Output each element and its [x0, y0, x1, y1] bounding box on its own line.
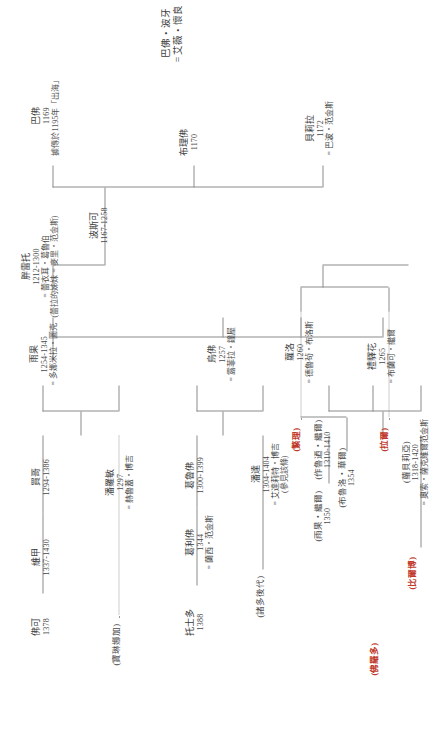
- node-spouse: = 奧索・薩克維爾范金斯: [419, 418, 428, 505]
- node-years: 1260: [295, 320, 304, 383]
- node-spouse: = 蕾衣耳・葛魯伯: [40, 215, 49, 317]
- node-ponto[interactable]: 胖雷托 1212-1300 = 蕾衣耳・葛魯伯 (蕾拉的姊妹 = 麥里・范金斯): [20, 215, 59, 317]
- node-luobeiji[interactable]: (蘿貝莉亞) 1318-1420 = 奧索・薩克維爾范金斯: [400, 418, 429, 505]
- node-griffo[interactable]: 葛利佛 1344 = 蘭西・范金斯: [184, 514, 213, 569]
- node-years: 1212-1300: [31, 215, 40, 317]
- connector: [300, 416, 346, 417]
- node-many-descendants[interactable]: (諸多後代): [254, 575, 264, 617]
- connector: [300, 287, 301, 311]
- chart-title-line-1: 巴佛・波牙: [160, 4, 172, 62]
- node-name: 烏佛: [206, 326, 217, 381]
- node-years: 1350: [322, 490, 331, 541]
- node-name: 托士多: [184, 608, 195, 635]
- node-name: 巴佛: [30, 75, 41, 155]
- connector: [118, 385, 119, 411]
- node-borolo[interactable]: 禮驛花 1265 = 布蘭可・繼爾: [366, 328, 395, 383]
- node-merry[interactable]: (繁理): [290, 427, 300, 451]
- node-years: 1304-1404: [261, 442, 270, 505]
- connector: [52, 264, 104, 265]
- node-hugo[interactable]: 雨果 1254-1345 = 多娜米拉・圖克: [28, 322, 57, 385]
- connector: [42, 385, 43, 411]
- node-name: (繁理): [290, 427, 300, 451]
- node-years: 1257: [217, 326, 226, 381]
- node-years: 1337-1430: [41, 539, 50, 575]
- node-name: 佛可: [30, 617, 41, 635]
- node-name: 維甲: [30, 539, 41, 575]
- node-years: 1167-1258: [99, 207, 108, 243]
- node-years: 1388: [195, 608, 204, 635]
- node-note: 據傳於1195年「出海」: [50, 75, 59, 155]
- node-name: (比爾博): [406, 556, 416, 589]
- node-name: 波斯可: [88, 207, 99, 243]
- node-years: 1300-1399: [195, 457, 204, 493]
- node-spouse: = 露菲拉・鐘屋: [226, 326, 235, 381]
- connector: [372, 385, 373, 411]
- node-grover[interactable]: 葛魯佛 1300-1399: [184, 457, 204, 493]
- node-name: 禮驛花: [366, 328, 377, 383]
- node-years: 1318-1420: [410, 418, 419, 505]
- connector: [388, 287, 389, 311]
- node-name: (寶琳娜加): [110, 623, 120, 665]
- node-bosco[interactable]: 波斯可 1167-1258: [88, 207, 108, 243]
- node-beilila[interactable]: 貝莉拉 1172 = 巴波・范金斯: [304, 100, 333, 155]
- node-togo[interactable]: 托士多 1388: [184, 608, 204, 635]
- node-years: 1294-1386: [41, 459, 50, 495]
- node-name: 蘿洛: [284, 320, 295, 383]
- node-yuguo[interactable]: (雨果・繼爾) 1350: [312, 490, 331, 541]
- node-lanuo[interactable]: (拉爾): [378, 427, 388, 451]
- node-note: (蕾拉的姊妹 = 麥里・范金斯): [49, 215, 58, 317]
- node-name: (作魯迺・繼爾): [312, 419, 322, 479]
- connector: [193, 165, 194, 187]
- connector: [322, 264, 408, 265]
- node-years: 1265: [377, 328, 386, 383]
- node-pansy[interactable]: 潘羅敏 1297 = 赫魯蓋・博吉: [104, 454, 133, 509]
- node-frodo[interactable]: (佛羅多): [368, 642, 378, 675]
- node-spouse: = 赫魯蓋・博吉: [124, 454, 133, 509]
- node-note: (參見該條): [279, 442, 288, 505]
- node-name: 貝莉拉: [304, 100, 315, 155]
- connector: [52, 165, 53, 187]
- node-years: 1169: [41, 75, 50, 155]
- node-years: 1378: [41, 617, 50, 635]
- node-name: (拉爾): [378, 427, 388, 451]
- connector: [328, 385, 329, 411]
- connector: [222, 411, 223, 435]
- node-buluoda[interactable]: (作魯迺・繼爾) 1310-1410: [312, 419, 331, 479]
- connector: [322, 165, 323, 187]
- node-name: (雨果・繼爾): [312, 490, 322, 541]
- node-spouse: = 德魯茍・布洛斯: [304, 320, 313, 383]
- node-name: 潘羅敏: [104, 454, 115, 509]
- node-spouse: = 蘭西・范金斯: [204, 514, 213, 569]
- node-years: 1297: [115, 454, 124, 509]
- node-years: 1170: [189, 128, 198, 155]
- node-vigo[interactable]: 維甲 1337-1430: [30, 539, 50, 575]
- connector: [262, 385, 263, 411]
- node-bofur[interactable]: 布理佛 1170: [178, 128, 198, 155]
- node-name: 布理佛: [178, 128, 189, 155]
- node-name: 葛利佛: [184, 514, 195, 569]
- node-folco[interactable]: 佛可 1378: [30, 617, 50, 635]
- node-name: (蘿貝莉亞): [400, 418, 410, 505]
- node-paulina[interactable]: (寶琳娜加): [110, 623, 120, 665]
- node-name: 葛魯佛: [184, 457, 195, 493]
- node-spouse: = 多娜米拉・圖克: [48, 322, 57, 385]
- node-years: 1254-1345: [39, 322, 48, 385]
- node-name: 胖雷托: [20, 215, 31, 317]
- connector: [328, 410, 420, 411]
- connector: [346, 417, 347, 451]
- node-bilbo[interactable]: (比爾博): [406, 556, 416, 589]
- node-luoluo[interactable]: 蘿洛 1260 = 德魯茍・布洛斯: [284, 320, 313, 383]
- connector: [420, 385, 421, 411]
- node-spouse: = 艾達莉特・博吉: [270, 442, 279, 505]
- node-mungo[interactable]: 買哥 1294-1386: [30, 459, 50, 495]
- node-name: 雨果: [28, 322, 39, 385]
- connector: [52, 186, 322, 187]
- node-years: 1310-1410: [322, 419, 331, 479]
- node-ponda[interactable]: 潘達 1304-1404 = 艾達莉特・博吉 (參見該條): [250, 442, 289, 505]
- node-name: (布魯洛・華爾): [336, 447, 346, 507]
- node-ufo[interactable]: 烏佛 1257 = 露菲拉・鐘屋: [206, 326, 235, 381]
- node-bifur[interactable]: 巴佛 1169 據傳於1195年「出海」: [30, 75, 59, 155]
- node-years: 1354: [346, 447, 355, 507]
- node-name: 潘達: [250, 442, 261, 505]
- node-bruluo[interactable]: (布魯洛・華爾) 1354: [336, 447, 355, 507]
